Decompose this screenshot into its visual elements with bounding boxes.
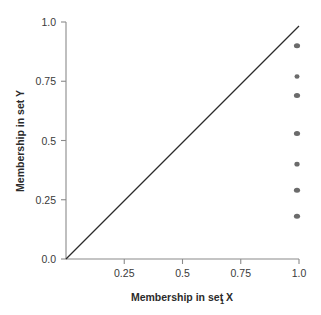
diagonal-reference-line <box>66 26 299 259</box>
y-tick-label-0_5: 0.5 <box>41 135 56 147</box>
y-tick-label-0_75: 0.75 <box>36 75 57 87</box>
scatter-points-group <box>294 43 300 219</box>
data-point[interactable] <box>295 74 300 79</box>
scatter-plot-canvas: 1.0 0.75 0.5 0.25 0.0 0.25 0.5 0.75 1.0 … <box>0 0 321 315</box>
data-point[interactable] <box>294 93 300 98</box>
chart-figure: 1.0 0.75 0.5 0.25 0.0 0.25 0.5 0.75 1.0 … <box>0 0 321 315</box>
x-axis-title: Membership in set X <box>131 291 233 303</box>
data-point[interactable] <box>294 214 300 219</box>
data-point[interactable] <box>294 43 300 48</box>
x-tick-label-1_0: 1.0 <box>292 267 307 279</box>
x-tick-label-0_25: 0.25 <box>114 267 135 279</box>
data-point[interactable] <box>294 162 299 167</box>
y-tick-label-0_25: 0.25 <box>36 194 57 206</box>
y-tick-label-1_0: 1.0 <box>41 16 56 28</box>
y-axis-ticks <box>61 22 66 259</box>
data-point[interactable] <box>294 131 300 136</box>
x-axis-ticks <box>124 259 299 264</box>
y-tick-label-0_0: 0.0 <box>41 253 56 265</box>
data-point[interactable] <box>294 188 300 193</box>
x-tick-label-0_75: 0.75 <box>231 267 252 279</box>
y-axis-title: Membership in set Y <box>14 90 26 192</box>
x-axis-title-subscript: 1 <box>220 297 224 306</box>
x-tick-label-0_5: 0.5 <box>175 267 190 279</box>
